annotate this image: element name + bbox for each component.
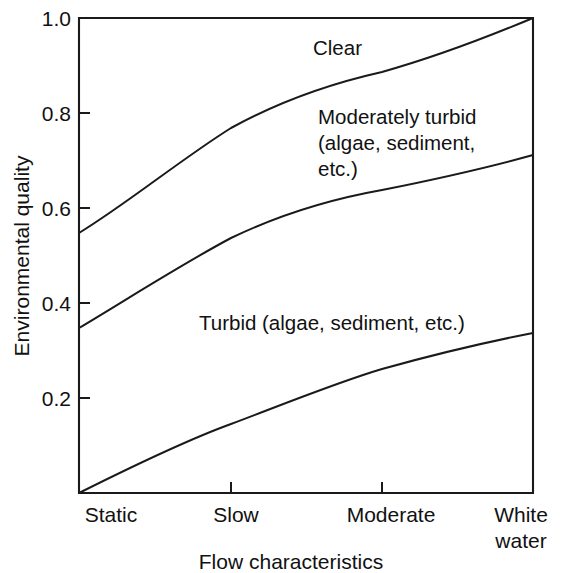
chart-figure: 1.0 0.8 0.6 0.4 0.2 Static Slow Moderate… <box>0 0 566 573</box>
region-label-moderately-turbid-line3: etc.) <box>318 157 358 180</box>
y-axis-title: Environmental quality <box>10 155 33 356</box>
environmental-quality-flow-chart: 1.0 0.8 0.6 0.4 0.2 Static Slow Moderate… <box>0 0 566 573</box>
region-label-moderately-turbid-line2: (algae, sediment, <box>318 131 475 154</box>
y-tick-label-1.0: 1.0 <box>42 7 71 30</box>
plot-frame <box>79 18 533 493</box>
x-axis-tick-labels: Static Slow Moderate White water <box>85 503 548 552</box>
region-label-turbid: Turbid (algae, sediment, etc.) <box>199 311 465 334</box>
plot-frame-rect <box>79 18 533 493</box>
x-tick-label-static: Static <box>85 503 138 526</box>
y-axis-ticks <box>79 18 90 398</box>
x-axis-title: Flow characteristics <box>199 550 383 573</box>
x-tick-label-slow: Slow <box>213 503 259 526</box>
y-tick-label-0.8: 0.8 <box>42 102 71 125</box>
x-axis-ticks <box>231 482 382 493</box>
y-tick-label-0.4: 0.4 <box>42 292 72 315</box>
curve-turbid-boundary <box>79 333 533 493</box>
y-axis-tick-labels: 1.0 0.8 0.6 0.4 0.2 <box>42 7 72 410</box>
boundary-curves <box>79 18 533 493</box>
x-tick-label-white: White <box>494 503 548 526</box>
x-tick-label-moderate: Moderate <box>347 503 436 526</box>
y-tick-label-0.6: 0.6 <box>42 197 71 220</box>
region-label-moderately-turbid-line1: Moderately turbid <box>318 105 476 128</box>
region-annotations: Clear Moderately turbid (algae, sediment… <box>199 36 476 334</box>
x-tick-label-water: water <box>494 529 546 552</box>
y-tick-label-0.2: 0.2 <box>42 387 71 410</box>
curve-moderately-turbid-boundary <box>79 155 533 328</box>
region-label-clear: Clear <box>313 36 362 59</box>
